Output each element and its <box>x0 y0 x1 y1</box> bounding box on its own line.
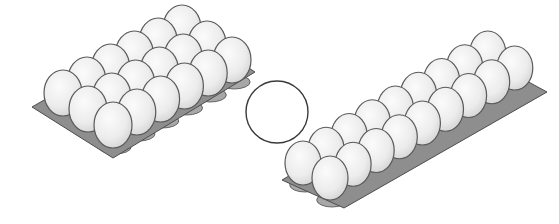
blank-circle <box>246 81 308 143</box>
illustration-canvas <box>0 0 559 224</box>
egg <box>312 156 348 200</box>
eggs <box>44 5 251 148</box>
egg <box>94 102 132 148</box>
egg-carton-illustration <box>0 0 559 224</box>
left-egg-carton <box>32 5 255 158</box>
answer-circle <box>246 81 308 143</box>
right-egg-carton <box>282 31 547 208</box>
